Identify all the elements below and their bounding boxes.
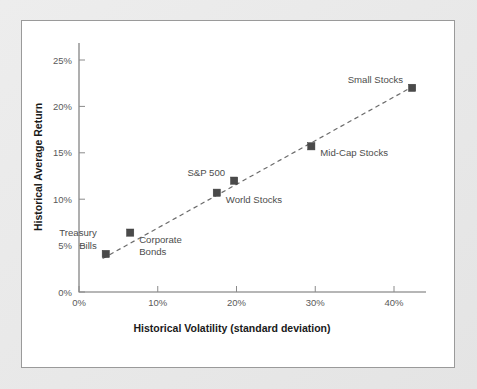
x-tick-label: 40% xyxy=(384,297,404,308)
y-tick-label: 15% xyxy=(53,147,73,158)
y-tick-label: 5% xyxy=(58,240,72,251)
x-tick-label: 30% xyxy=(306,297,326,308)
y-axis-ticks xyxy=(79,60,85,292)
data-points-layer: TreasuryBillsCorporateBondsWorld StocksS… xyxy=(59,74,415,258)
y-tick-label: 25% xyxy=(53,55,73,66)
data-point-label: CorporateBonds xyxy=(139,234,182,258)
x-tick-label: 0% xyxy=(72,297,86,308)
data-point-marker xyxy=(127,229,134,236)
data-point-marker xyxy=(213,189,220,196)
y-tick-label: 0% xyxy=(58,287,72,298)
data-point-label: Small Stocks xyxy=(348,74,404,85)
y-axis-title: Historical Average Return xyxy=(32,103,44,231)
y-tick-label: 10% xyxy=(53,194,73,205)
data-point-marker xyxy=(231,177,238,184)
y-tick-label: 20% xyxy=(53,101,73,112)
chart-panel: 25% 20% 15% 10% 5% 0% 0% 10% 20% 30% 40%… xyxy=(21,20,455,368)
data-point-label: World Stocks xyxy=(226,194,283,205)
data-point-label: S&P 500 xyxy=(187,167,225,178)
scatter-chart: 25% 20% 15% 10% 5% 0% 0% 10% 20% 30% 40%… xyxy=(22,21,454,367)
data-point-marker xyxy=(102,250,109,257)
y-axis-tick-labels: 25% 20% 15% 10% 5% 0% xyxy=(53,55,73,298)
data-point-label: Mid-Cap Stocks xyxy=(320,147,388,158)
x-axis-tick-labels: 0% 10% 20% 30% 40% xyxy=(72,297,404,308)
data-point-marker xyxy=(308,143,315,150)
x-axis-ticks xyxy=(79,286,394,292)
x-tick-label: 10% xyxy=(148,297,168,308)
figure-root: 25% 20% 15% 10% 5% 0% 0% 10% 20% 30% 40%… xyxy=(0,0,477,389)
x-tick-label: 20% xyxy=(227,297,247,308)
x-axis-title: Historical Volatility (standard deviatio… xyxy=(133,322,330,334)
data-point-marker xyxy=(409,84,416,91)
